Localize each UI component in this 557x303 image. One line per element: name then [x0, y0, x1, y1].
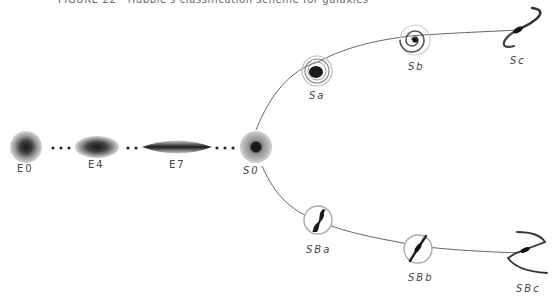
- label-E0: E0: [17, 163, 34, 174]
- label-SBc: SBc: [516, 283, 541, 294]
- galaxy-SBc: SBc: [508, 232, 547, 294]
- galaxy-E4: E4: [75, 136, 119, 170]
- galaxy-Sb: Sb: [400, 25, 430, 72]
- label-SBb: SBb: [408, 272, 434, 283]
- label-SBa: SBa: [306, 244, 331, 255]
- spiral-branch-line: [256, 30, 518, 130]
- label-Sc: Sc: [510, 55, 526, 66]
- galaxy-E0: E0: [10, 131, 42, 174]
- galaxy-SBa: SBa: [304, 206, 332, 255]
- label-Sb: Sb: [408, 61, 425, 72]
- galaxy-SBb: SBb: [404, 235, 434, 283]
- label-S0: S0: [243, 165, 260, 176]
- label-Sa: Sa: [309, 90, 325, 101]
- label-E7: E7: [169, 159, 186, 170]
- label-E4: E4: [88, 159, 105, 170]
- barred-branch-line: [262, 166, 520, 253]
- galaxy-Sc: Sc: [504, 8, 541, 66]
- galaxy-S0: S0: [240, 131, 272, 176]
- galaxy-E7: E7: [142, 141, 212, 171]
- hubble-tuning-fork-diagram: E0 E4 E7 S0 Sa Sb Sc SBa: [0, 0, 557, 303]
